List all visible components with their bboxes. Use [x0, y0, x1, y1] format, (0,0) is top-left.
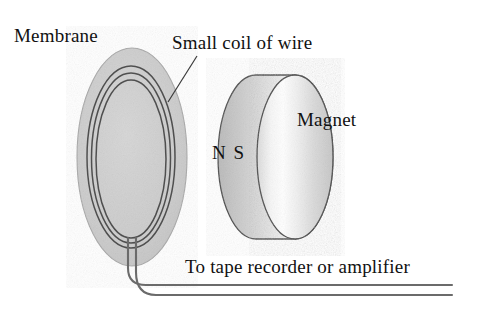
label-magnet-poles: N S — [212, 143, 246, 162]
label-output-destination: To tape recorder or amplifier — [185, 257, 410, 276]
coil-leader-line — [168, 56, 197, 102]
label-membrane: Membrane — [14, 26, 98, 45]
figure-canvas: Membrane Small coil of wire Magnet N S T… — [0, 0, 478, 320]
label-magnet: Magnet — [297, 110, 356, 129]
label-small-coil-of-wire: Small coil of wire — [172, 33, 312, 52]
magnet-front-face — [257, 75, 333, 239]
